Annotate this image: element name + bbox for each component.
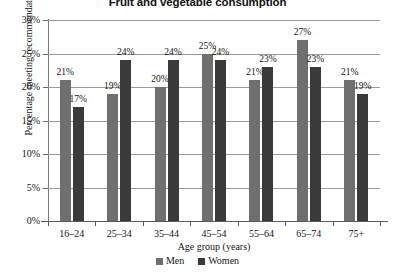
legend-item-women[interactable]: Women: [198, 256, 239, 266]
x-tick-label-6: 75+: [326, 228, 386, 239]
x-axis-label: Age group (years): [48, 241, 380, 252]
x-tick-mark: [48, 221, 49, 226]
bar-value-label: 19%: [348, 81, 378, 91]
x-tick-mark: [238, 221, 239, 226]
chart-legend: MenWomen: [0, 256, 395, 266]
bar-men-2: [155, 87, 166, 221]
chart-container: Fruit and vegetable consumption Percenta…: [0, 0, 395, 273]
y-tick-label: 10%: [6, 148, 40, 159]
x-tick-mark: [190, 221, 191, 226]
y-tick-label: 25%: [6, 48, 40, 59]
bar-value-label: 21%: [335, 67, 365, 77]
bar-men-6: [344, 80, 355, 221]
bar-value-label: 23%: [300, 54, 330, 64]
bar-men-5: [297, 40, 308, 221]
legend-label: Men: [166, 256, 184, 266]
bar-value-label: 24%: [111, 47, 141, 57]
x-tick-mark: [333, 221, 334, 226]
bar-value-label: 23%: [253, 54, 283, 64]
bar-women-3: [215, 60, 226, 221]
legend-swatch-icon: [198, 258, 205, 265]
y-tick-label: 5%: [6, 182, 40, 193]
chart-title: Fruit and vegetable consumption: [0, 0, 395, 8]
bar-value-label: 27%: [287, 27, 317, 37]
x-tick-mark: [285, 221, 286, 226]
gridline: [48, 121, 380, 122]
bar-women-4: [262, 67, 273, 221]
bar-men-4: [249, 80, 260, 221]
bar-value-label: 24%: [206, 47, 236, 57]
gridline: [48, 154, 380, 155]
x-tick-mark: [95, 221, 96, 226]
legend-label: Women: [208, 256, 239, 266]
bar-value-label: 21%: [50, 67, 80, 77]
x-axis-line: [41, 221, 388, 222]
y-tick-label: 20%: [6, 81, 40, 92]
y-tick-label: 30%: [6, 14, 40, 25]
x-tick-mark: [380, 221, 381, 226]
legend-item-men[interactable]: Men: [156, 256, 184, 266]
bar-women-5: [310, 67, 321, 221]
y-tick-label: 15%: [6, 115, 40, 126]
gridline: [48, 188, 380, 189]
bar-value-label: 17%: [63, 94, 93, 104]
plot-area: 21%17%19%24%20%24%25%24%21%23%27%23%21%1…: [48, 20, 380, 221]
bar-men-1: [107, 94, 118, 221]
bar-value-label: 24%: [158, 47, 188, 57]
bar-women-0: [73, 107, 84, 221]
legend-swatch-icon: [156, 258, 163, 265]
bar-men-3: [202, 54, 213, 222]
y-tick-label: 0%: [6, 215, 40, 226]
bar-women-6: [357, 94, 368, 221]
x-tick-mark: [143, 221, 144, 226]
gridline: [48, 20, 380, 21]
bar-women-1: [120, 60, 131, 221]
bar-women-2: [168, 60, 179, 221]
